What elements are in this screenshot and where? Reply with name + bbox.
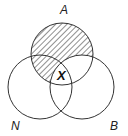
- label-x-center: X: [56, 68, 67, 83]
- label-a: A: [59, 3, 68, 17]
- label-n: N: [11, 119, 20, 133]
- label-b: B: [110, 119, 118, 133]
- venn-diagram: A N B X: [0, 0, 128, 136]
